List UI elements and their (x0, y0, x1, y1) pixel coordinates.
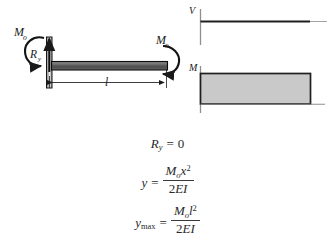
equation-max-deflection-denominator: 2EI (171, 220, 200, 237)
equation-deflection: y= Mox2 2EI (0, 164, 335, 197)
beam-formula-figure: M o R y M o l V M (0, 0, 335, 241)
shear-moment-svg: V M (185, 0, 335, 125)
label-applied-moment-right-subscript: o (165, 41, 169, 50)
equation-block: Ry=0 y= Mox2 2EI ymax= Mol2 2EI (0, 128, 335, 241)
label-shear-axis: V (189, 5, 197, 16)
equation-deflection-num-x-exponent: 2 (186, 163, 190, 173)
label-reaction-vertical: R (29, 48, 37, 60)
label-moment-axis: M (188, 62, 198, 73)
equation-deflection-fraction: Mox2 2EI (163, 164, 194, 197)
equation-reaction: Ry=0 (0, 136, 335, 152)
label-applied-moment-left-subscript: o (23, 33, 27, 42)
beam-member (52, 62, 168, 71)
equation-max-deflection: ymax= Mol2 2EI (0, 204, 335, 237)
equation-deflection-operator: = (147, 175, 162, 190)
label-beam-length: l (105, 76, 108, 88)
equation-max-deflection-numerator: Mol2 (171, 204, 200, 220)
equation-deflection-numerator: Mox2 (163, 164, 194, 180)
equation-deflection-den-stiffness: EI (175, 181, 187, 196)
shear-moment-diagrams: V M (185, 0, 335, 125)
equation-max-deflection-lhs-subscript: max (141, 221, 156, 231)
moment-diagram: M (188, 62, 325, 113)
equation-max-deflection-num-length-exponent: 2 (193, 203, 197, 213)
equation-max-deflection-operator: = (156, 215, 171, 230)
cantilever-beam-diagram: M o R y M o l (0, 0, 185, 125)
equation-deflection-denominator: 2EI (163, 180, 194, 197)
equation-deflection-num-moment: M (166, 163, 177, 178)
equation-max-deflection-num-moment: M (174, 203, 185, 218)
equation-reaction-operator: = (162, 136, 177, 151)
equation-reaction-rhs: 0 (178, 136, 185, 151)
equation-max-deflection-den-stiffness: EI (182, 221, 194, 236)
label-reaction-vertical-subscript: y (37, 55, 42, 63)
shear-diagram: V (189, 5, 327, 45)
equation-reaction-lhs: R (151, 136, 159, 151)
beam-diagram-svg: M o R y M o l (0, 0, 185, 125)
equation-max-deflection-fraction: Mol2 2EI (171, 204, 200, 237)
